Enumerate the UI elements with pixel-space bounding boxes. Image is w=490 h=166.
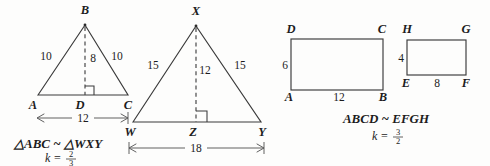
triangle-wxy-outline <box>133 26 261 122</box>
rect-abcd-height-label: 6 <box>282 59 288 71</box>
vertex-dot-x <box>195 25 198 28</box>
altitude-length-bd: 8 <box>90 52 96 64</box>
vertex-label-rect-h: H <box>401 22 413 36</box>
dimension-wxy-base: 18 <box>129 141 264 155</box>
rectangle-efgh-outline <box>407 40 466 75</box>
similarity-statement-triangles: △ABC ~ △WXY <box>13 136 103 151</box>
side-length-xy: 15 <box>234 59 246 71</box>
vertex-label-rect-f: F <box>461 76 471 90</box>
rect-efgh-height-label: 4 <box>398 52 404 64</box>
triangle-wxy-group: X W Y Z 15 15 12 18 <box>124 4 267 155</box>
vertex-dot-b <box>84 24 87 27</box>
right-angle-marker-d <box>85 86 94 95</box>
scale-denominator-rectangles: 2 <box>396 136 400 146</box>
vertex-label-rect-d: D <box>285 22 295 36</box>
rectangle-similarity-statement: ABCD ~ EFGH k = 3 2 <box>342 111 430 146</box>
dimension-value-wxy: 18 <box>190 142 202 154</box>
rectangle-abcd-group: A B C D 6 12 <box>282 22 387 104</box>
vertex-label-rect-c: C <box>378 22 387 36</box>
side-length-wx: 15 <box>147 59 159 71</box>
similarity-statement-rectangles: ABCD ~ EFGH <box>342 111 430 126</box>
vertex-label-a: A <box>28 98 37 112</box>
right-angle-marker-z <box>196 111 207 122</box>
rectangle-efgh-group: E F G H 4 8 <box>398 22 471 90</box>
vertex-label-c: C <box>124 98 133 112</box>
vertex-label-rect-a: A <box>284 90 293 104</box>
rectangle-abcd-outline <box>291 39 383 90</box>
geometry-figure: B A C D 10 10 8 12 △ABC ~ △WXY k = 2 <box>0 0 490 166</box>
vertex-label-rect-e: E <box>401 76 410 90</box>
vertex-label-z: Z <box>188 125 197 139</box>
scale-denominator-triangles: 3 <box>69 158 73 166</box>
scale-factor-label-triangles: k = <box>45 151 61 165</box>
triangle-abc-group: B A C D 10 10 8 12 △ABC ~ △WXY k = 2 <box>13 3 133 166</box>
scale-factor-label-rectangles: k = <box>372 129 388 143</box>
vertex-label-rect-g: G <box>461 22 470 36</box>
rect-abcd-width-label: 12 <box>333 91 345 103</box>
vertex-label-y: Y <box>258 125 267 139</box>
vertex-label-w: W <box>124 125 136 139</box>
side-length-ab: 10 <box>40 50 52 62</box>
dimension-abc-base: 12 <box>37 111 128 125</box>
triangle-similarity-statement: △ABC ~ △WXY k = 2 3 <box>13 136 103 166</box>
vertex-label-x: X <box>191 4 201 18</box>
vertex-label-d: D <box>74 98 84 112</box>
dimension-value-abc: 12 <box>77 112 89 124</box>
altitude-length-xz: 12 <box>199 64 211 76</box>
rect-efgh-width-label: 8 <box>434 77 440 89</box>
side-length-bc: 10 <box>111 50 123 62</box>
vertex-label-rect-b: B <box>378 90 387 104</box>
vertex-label-b: B <box>80 3 89 17</box>
